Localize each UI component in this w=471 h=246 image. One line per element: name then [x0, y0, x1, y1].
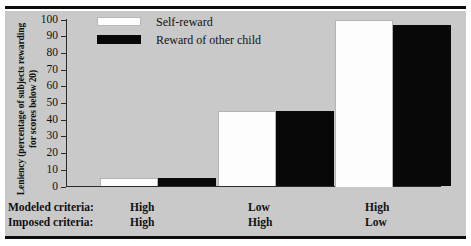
- bottom-rule: [5, 236, 466, 239]
- white-swatch-icon: [97, 17, 141, 26]
- top-rule: [5, 6, 466, 9]
- condition-modeled-group-2: Low: [248, 201, 270, 214]
- condition-modeled-group-3: High: [365, 201, 389, 214]
- black-swatch-icon: [97, 35, 141, 44]
- bar-self-reward-group-3: [335, 20, 393, 187]
- bar-reward-other-child-group-2: [276, 111, 334, 186]
- y-tick-label-0: 0: [36, 181, 58, 193]
- y-tick-label-40: 40: [36, 114, 58, 126]
- legend-label-reward-other-child: Reward of other child: [156, 33, 261, 47]
- y-axis-line: [66, 19, 67, 187]
- y-tick-label-30: 30: [36, 130, 58, 142]
- bar-reward-other-child-group-1: [158, 178, 216, 186]
- condition-imposed-group-1: High: [130, 216, 154, 229]
- condition-imposed-group-3: Low: [365, 216, 387, 229]
- figure-bar-chart: Leniency (percentage of subjects rewardi…: [0, 0, 471, 246]
- y-tick-label-20: 20: [36, 147, 58, 159]
- y-tick-label-70: 70: [36, 64, 58, 76]
- y-tick-label-60: 60: [36, 80, 58, 92]
- y-tick-label-100: 100: [36, 14, 58, 26]
- condition-modeled-group-1: High: [130, 201, 154, 214]
- y-tick-label-80: 80: [36, 47, 58, 59]
- condition-imposed-group-2: High: [248, 216, 272, 229]
- legend-label-self-reward: Self-reward: [156, 15, 213, 29]
- y-tick-label-10: 10: [36, 164, 58, 176]
- bar-reward-other-child-group-3: [393, 25, 451, 187]
- y-tick-label-90: 90: [36, 30, 58, 42]
- bar-self-reward-group-2: [218, 111, 276, 186]
- condition-row-label-imposed: Imposed criteria:: [8, 216, 93, 229]
- y-tick-label-50: 50: [36, 97, 58, 109]
- bar-self-reward-group-1: [100, 178, 158, 186]
- condition-row-label-modeled: Modeled criteria:: [8, 201, 94, 214]
